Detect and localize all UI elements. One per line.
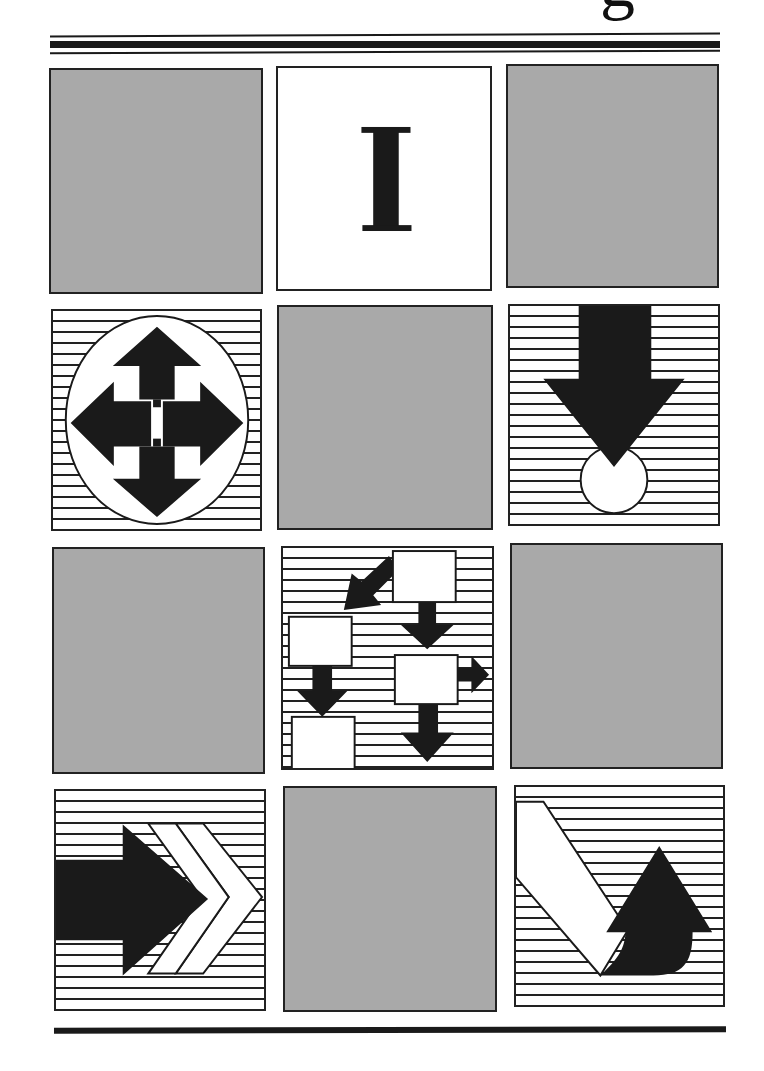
flowchart-boxes-arrows-icon — [283, 548, 492, 768]
i-beam-cursor-icon — [278, 68, 490, 289]
heading-fragment: g — [600, 0, 635, 18]
right-arrow-chevrons-icon — [56, 791, 264, 1009]
panel-r4c2-blank — [283, 786, 497, 1012]
curved-up-arrow-icon — [516, 787, 723, 1005]
down-arrow-into-circle-icon — [510, 306, 718, 524]
panel-r1c3-blank — [506, 64, 719, 288]
panel-r2c1-move-arrows — [51, 309, 262, 531]
top-rule-thick — [50, 41, 720, 48]
panel-r4c1-right-arrow — [54, 789, 266, 1011]
panel-r3c3-blank — [510, 543, 723, 769]
panel-r3c1-blank — [52, 547, 265, 774]
four-way-move-arrows-icon — [53, 311, 260, 529]
panel-r2c2-blank — [277, 305, 493, 530]
panel-r4c3-curved-arrow — [514, 785, 725, 1007]
panel-r2c3-down-arrow-circle — [508, 304, 720, 526]
panel-r1c1-blank — [49, 68, 263, 294]
bottom-rule — [54, 1026, 726, 1033]
panel-r1c2-i-beam — [276, 66, 492, 291]
top-rule-thin-1 — [50, 33, 720, 38]
panel-r3c2-flowchart — [281, 546, 494, 770]
top-rule-thin-2 — [50, 50, 720, 54]
